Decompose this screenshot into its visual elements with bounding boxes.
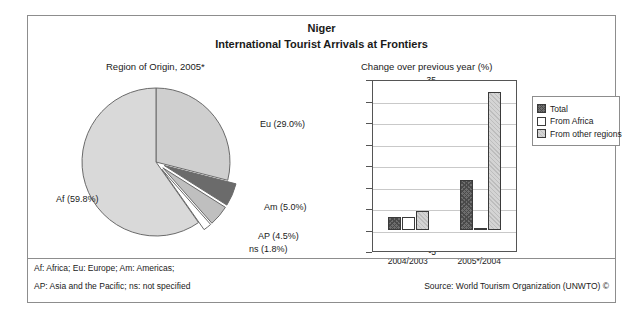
legend-label-from-other-regions: From other regions: [550, 129, 622, 139]
legend-item-total: Total: [537, 104, 615, 114]
bar-chart: 35302520151050-5 2004/20032005*/2004 Tot…: [344, 74, 612, 274]
legend-label-from-africa: From Africa: [550, 116, 593, 126]
bar-total: [388, 217, 401, 230]
chart-card: Niger International Tourist Arrivals at …: [27, 15, 616, 303]
bar-from-africa: [474, 228, 487, 230]
source-note: Source: World Tourism Organization (UNWT…: [424, 281, 609, 291]
legend-item-from-africa: From Africa: [537, 116, 615, 126]
legend-swatch-from-africa: [537, 117, 546, 126]
legend-item-from-other-regions: From other regions: [537, 129, 615, 139]
bar-plot-area: [372, 80, 517, 252]
pie-label-am: Am (5.0%): [264, 202, 307, 212]
footnote-line-1: Af: Africa; Eu: Europe; Am: Americas;: [34, 263, 174, 273]
pie-label-eu: Eu (29.0%): [260, 119, 305, 129]
pie-label-af: Af (59.8%): [56, 194, 99, 204]
y-tick-mark: [366, 252, 372, 253]
footnote-line-2: AP: Asia and the Pacific; ns: not specif…: [34, 281, 190, 291]
pie-chart: Eu (29.0%) Af (59.8%) Am (5.0%) AP (4.5%…: [36, 74, 331, 259]
legend-swatch-total: [537, 104, 546, 113]
legend-label-total: Total: [550, 104, 568, 114]
bar-from-africa: [402, 217, 415, 229]
bar-chart-title: Change over previous year (%): [361, 61, 492, 72]
bar-from-other-regions: [488, 92, 501, 230]
bar-from-other-regions: [416, 211, 429, 229]
legend-swatch-from-other-regions: [537, 129, 546, 138]
pie-chart-title: Region of Origin, 2005*: [106, 61, 205, 72]
footer-divider: [28, 258, 615, 259]
page-subtitle: International Tourist Arrivals at Fronti…: [28, 38, 615, 50]
chart-legend: Total From Africa From other regions: [532, 96, 620, 146]
pie-label-ap: AP (4.5%): [258, 231, 299, 241]
page-title: Niger: [28, 22, 615, 34]
gridline: [373, 232, 516, 233]
bar-total: [460, 180, 473, 230]
pie-label-ns: ns (1.8%): [249, 244, 288, 254]
